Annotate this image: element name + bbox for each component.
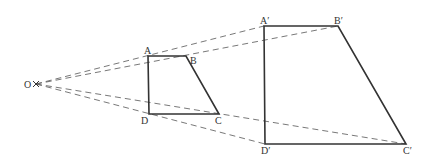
label-b-prime: B′	[334, 15, 343, 26]
label-c-prime: C′	[403, 145, 412, 156]
label-a-prime: A′	[260, 15, 269, 26]
label-d: D	[141, 115, 148, 126]
label-a: A	[144, 45, 152, 56]
label-d-prime: D′	[261, 145, 270, 156]
label-b: B	[190, 55, 197, 66]
ray-o-b-prime	[36, 26, 338, 84]
label-o: O	[24, 79, 31, 90]
label-c: C	[215, 115, 222, 126]
trapezoid-a-prime-b-prime-c-prime-d-prime	[264, 26, 406, 144]
trapezoid-abcd	[148, 56, 219, 114]
diagram-canvas: O A B C D A′ B′ C′ D′	[0, 0, 435, 163]
ray-o-c-prime	[36, 84, 406, 144]
